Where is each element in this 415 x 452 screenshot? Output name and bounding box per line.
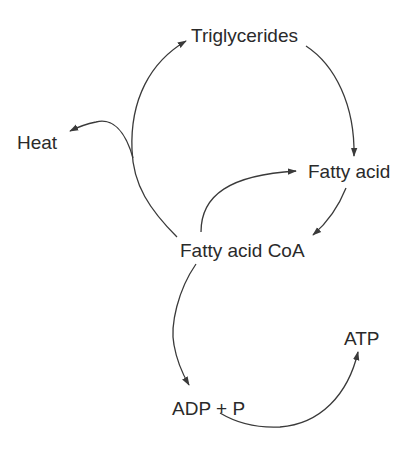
node-fatty-acid-coa: Fatty acid CoA [180,241,305,260]
node-heat: Heat [17,133,57,152]
arrow-coa-to-fatty-acid [201,171,296,232]
arrow-fatty-acid-to-coa [313,188,346,235]
arrow-coa-to-triglycerides [132,41,186,237]
arrow-coa-to-adp [173,264,196,385]
arrow-to-heat [70,121,133,158]
arrow-triglycerides-to-fatty-acid [306,46,354,156]
arrows-layer [0,0,415,452]
diagram-canvas: Triglycerides Heat Fatty acid Fatty acid… [0,0,415,452]
node-atp: ATP [344,329,380,348]
node-triglycerides: Triglycerides [191,26,298,45]
node-adp-p: ADP + P [172,399,245,418]
node-fatty-acid: Fatty acid [308,162,390,181]
